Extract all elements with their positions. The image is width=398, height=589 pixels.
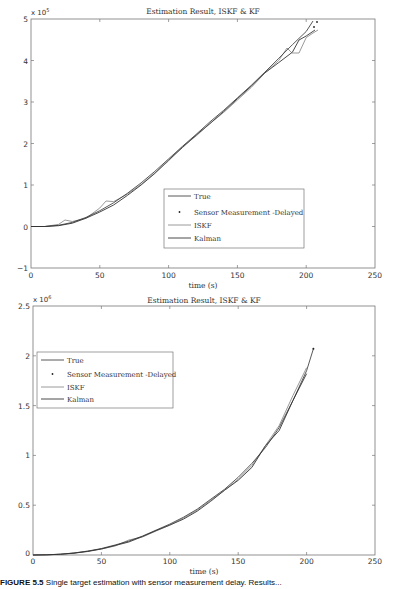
top-xtick-label: 200	[299, 271, 314, 280]
top-series-sensor-points	[313, 21, 318, 28]
top-ytick-label: −1	[17, 264, 28, 273]
top-xtick-label: 50	[95, 271, 105, 280]
bottom-series-sensor-points	[312, 348, 314, 350]
top-legend: True Sensor Measurement -Delayed ISKF Ka…	[164, 189, 304, 248]
top-xtick-label: 250	[368, 271, 383, 280]
legend-label-sensor: Sensor Measurement -Delayed	[67, 371, 177, 379]
legend-label-true: True	[67, 357, 84, 365]
legend-swatch-sensor	[52, 373, 54, 375]
top-y-multiplier: x 105	[31, 7, 49, 17]
legend-label-kalman: Kalman	[194, 235, 221, 243]
bottom-ytick-label: 0.5	[18, 501, 30, 510]
bottom-xtick-label: 0	[31, 557, 36, 566]
top-ytick-label: 1	[23, 181, 28, 190]
bottom-x-axis-label: time (s)	[189, 567, 218, 575]
legend-label-sensor: Sensor Measurement -Delayed	[194, 209, 304, 217]
figure-caption-label: FIGURE 5.5	[0, 578, 44, 587]
top-chart-title: Estimation Result, ISKF & KF	[146, 7, 260, 16]
bottom-chart: 2.5 2 1.5 1 0.5 0 0 50 100 150 200 250 x…	[0, 290, 398, 579]
bottom-xtick-label: 50	[97, 557, 107, 566]
bottom-y-multiplier: x 106	[33, 294, 51, 304]
bottom-ytick-label: 2	[25, 352, 30, 361]
bottom-legend: True Sensor Measurement -Delayed ISKF Ka…	[37, 352, 177, 408]
top-ytick-label: 3	[23, 98, 28, 107]
top-x-axis-label: time (s)	[188, 281, 217, 290]
bottom-xtick-label: 150	[231, 557, 246, 566]
bottom-ytick-label: 1	[25, 451, 30, 460]
top-chart-svg: 5 4 3 2 1 0 −1 0 50 100 150 200 250 x 10…	[0, 0, 398, 290]
legend-label-true: True	[194, 193, 211, 201]
top-xtick-label: 100	[161, 271, 176, 280]
figure-caption: FIGURE 5.5 Single target estimation with…	[0, 578, 398, 587]
top-ytick-label: 0	[23, 223, 28, 232]
bottom-xtick-label: 250	[368, 557, 383, 566]
top-ytick-label: 2	[23, 140, 28, 149]
top-ytick-label: 5	[23, 15, 28, 24]
bottom-ytick-label: 2.5	[18, 302, 30, 311]
figure-caption-text: Single target estimation with sensor mea…	[46, 578, 282, 587]
bottom-xtick-label: 100	[163, 557, 178, 566]
legend-swatch-sensor	[179, 211, 181, 213]
top-chart: 5 4 3 2 1 0 −1 0 50 100 150 200 250 x 10…	[0, 0, 398, 294]
top-legend-box	[164, 189, 304, 248]
legend-label-kalman: Kalman	[67, 396, 94, 404]
top-xtick-label: 150	[230, 271, 245, 280]
top-xtick-label: 0	[29, 271, 34, 280]
bottom-ytick-label: 0	[25, 549, 30, 558]
bottom-chart-svg: 2.5 2 1.5 1 0.5 0 0 50 100 150 200 250 x…	[0, 290, 398, 575]
bottom-xtick-label: 200	[299, 557, 314, 566]
bottom-ytick-label: 1.5	[18, 402, 30, 411]
bottom-plot-frame	[33, 306, 375, 555]
bottom-chart-title: Estimation Result, ISKF & KF	[147, 296, 261, 305]
legend-label-iskf: ISKF	[194, 222, 212, 230]
legend-label-iskf: ISKF	[67, 384, 85, 392]
top-ytick-label: 4	[23, 57, 28, 66]
